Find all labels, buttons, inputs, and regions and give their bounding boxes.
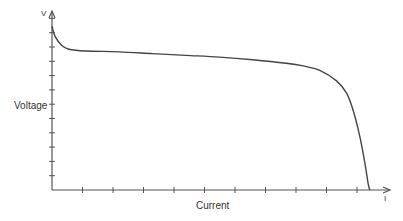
plot-area bbox=[0, 0, 403, 221]
axes bbox=[49, 11, 390, 193]
x-axis-symbol: I bbox=[384, 194, 386, 203]
discharge-curve bbox=[52, 26, 370, 190]
y-axis-symbol: V bbox=[41, 9, 46, 18]
axis-ticks bbox=[49, 18, 357, 193]
x-axis-label: Current bbox=[196, 200, 229, 211]
y-axis-label: Voltage bbox=[14, 100, 47, 111]
voltage-current-chart: V Voltage Current I bbox=[0, 0, 403, 221]
